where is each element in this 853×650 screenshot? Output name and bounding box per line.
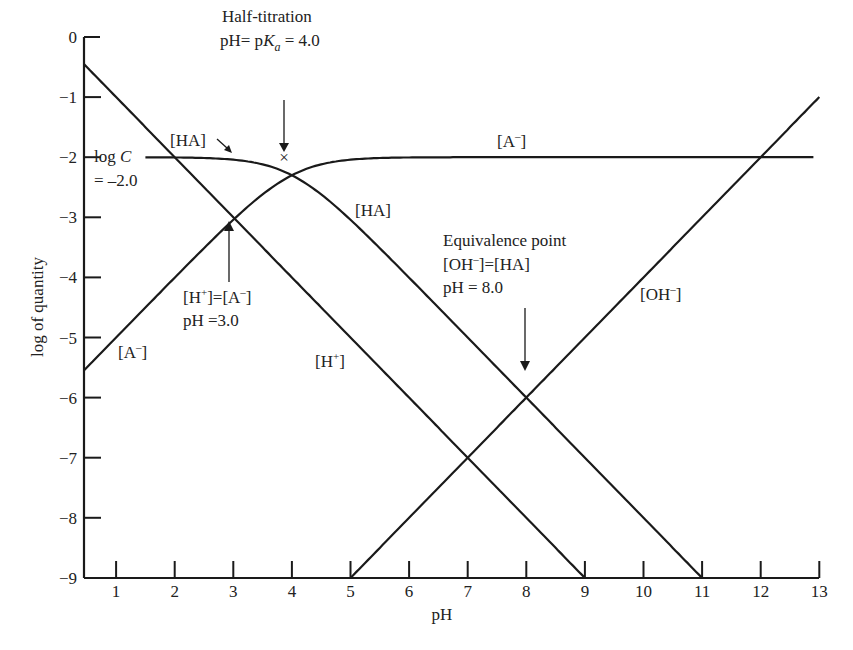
curve-ha <box>145 157 702 578</box>
a-minus-left-label: [A–] <box>118 341 147 362</box>
log-c-label: log C <box>94 147 132 166</box>
y-tick-label: 0 <box>69 28 78 47</box>
x-tick-label: 4 <box>288 582 297 601</box>
axes <box>84 37 819 578</box>
x-tick-label: 9 <box>581 582 590 601</box>
arrowhead-icon <box>520 361 530 371</box>
h-plus-label: [H+] <box>315 350 345 371</box>
y-tick-label: −1 <box>59 88 77 107</box>
x-tick-label: 2 <box>170 582 179 601</box>
h-equals-a-ph: pH =3.0 <box>183 311 239 330</box>
y-tick-label: −9 <box>59 569 77 588</box>
half-titration-marker: × <box>279 148 289 167</box>
y-tick-label: −5 <box>59 329 77 348</box>
annotation-log-c: log C = –2.0 <box>94 147 138 190</box>
x-tick-label: 11 <box>694 582 710 601</box>
a-minus-right-label: [A–] <box>497 130 526 151</box>
curve-oh-minus <box>351 97 820 578</box>
half-titration-value: pH= pKa = 4.0 <box>220 31 320 54</box>
x-tick-label: 7 <box>463 582 472 601</box>
equivalence-condition: [OH–]=[HA] <box>443 253 530 274</box>
x-tick-label: 6 <box>405 582 414 601</box>
x-tick-label: 8 <box>522 582 531 601</box>
x-tick-label: 10 <box>635 582 652 601</box>
x-axis-title: pH <box>432 605 453 624</box>
y-tick-label: −8 <box>59 509 77 528</box>
x-ticks: 12345678910111213 <box>112 561 828 601</box>
chart-canvas: 0−1−2−3−4−5−6−7−8−9 12345678910111213 pH… <box>0 0 853 650</box>
y-tick-label: −3 <box>59 208 77 227</box>
equivalence-title: Equivalence point <box>443 231 566 250</box>
log-c-value: = –2.0 <box>94 171 138 190</box>
y-tick-label: −4 <box>59 268 78 287</box>
annotation-h-equals-a: [H+]=[A–] pH =3.0 <box>183 221 252 330</box>
h-equals-a-label: [H+]=[A–] <box>183 286 252 307</box>
ha-top-label: [HA] <box>170 131 206 150</box>
annotation-half-titration: Half-titration pH= pKa = 4.0 × <box>220 7 320 167</box>
equivalence-ph: pH = 8.0 <box>443 278 503 297</box>
x-tick-label: 13 <box>811 582 828 601</box>
ha-mid-label: [HA] <box>355 201 391 220</box>
half-titration-title: Half-titration <box>222 7 312 26</box>
y-axis-title: log of quantity <box>28 256 47 357</box>
y-tick-label: −2 <box>59 148 77 167</box>
x-tick-label: 5 <box>346 582 355 601</box>
y-ticks: 0−1−2−3−4−5−6−7−8−9 <box>59 28 101 588</box>
x-tick-label: 12 <box>752 582 769 601</box>
y-tick-label: −6 <box>59 389 77 408</box>
x-tick-label: 1 <box>112 582 121 601</box>
oh-minus-label: [OH–] <box>640 283 681 304</box>
x-tick-label: 3 <box>229 582 238 601</box>
y-tick-label: −7 <box>59 449 78 468</box>
arrow-diagonal-icon <box>217 139 227 148</box>
annotation-equivalence-point: Equivalence point [OH–]=[HA] pH = 8.0 <box>443 231 566 371</box>
label-ha-top: [HA] <box>170 131 232 153</box>
